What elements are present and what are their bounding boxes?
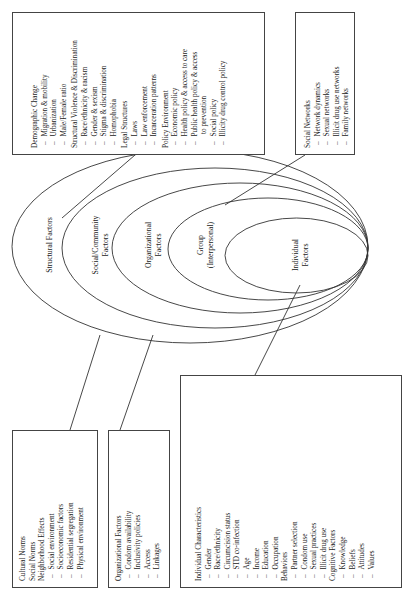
label-individual-factors: Individual Factors <box>291 239 310 271</box>
heading-legal-structures: Legal Structures <box>121 19 131 148</box>
item: Stigma & discrimination <box>100 19 110 148</box>
item: Economic policy <box>171 19 181 148</box>
label-line: Organizational <box>144 222 154 268</box>
item: Illicity drug control policy <box>219 19 229 148</box>
item: Socioeconomic factors <box>57 437 67 581</box>
connector-organizational <box>120 335 153 430</box>
item: Laws <box>131 19 141 148</box>
item: Homophobia <box>110 19 120 148</box>
label-line: Factors <box>300 239 310 271</box>
box-individual: Individual Characteristics Gender Race/e… <box>180 375 402 588</box>
box-structural: Demographic Change Migration & mobility … <box>12 12 265 155</box>
item: Incarceration patterns <box>150 19 160 148</box>
label-line: Factors <box>100 216 110 275</box>
connector-structural <box>62 155 135 218</box>
item: Sexual networks <box>323 19 333 148</box>
item: Illicit drug use networks <box>333 19 343 148</box>
heading-social-networks: Social Networks <box>304 19 314 148</box>
item: Social policy <box>210 19 220 148</box>
item: Income <box>253 382 263 581</box>
item: Condom use <box>301 382 311 581</box>
item: Social environment <box>48 437 58 581</box>
heading-demographic-change: Demographic Change <box>31 19 41 148</box>
label-line: Structural Factors <box>45 217 55 273</box>
connector-individual <box>255 285 300 375</box>
item: Partner selection <box>291 382 301 581</box>
item: Sexual practices <box>310 382 320 581</box>
item: Gender & sexism <box>91 19 101 148</box>
item: Illicit drug use <box>320 382 330 581</box>
item: Occupation <box>272 382 282 581</box>
item: Gender <box>205 382 215 581</box>
item: Knowledge <box>339 382 349 581</box>
heading-individual-characteristics: Individual Characteristics <box>195 382 205 581</box>
item: Law enforcement <box>141 19 151 148</box>
item: Education <box>262 382 272 581</box>
item: Race/ethnicity <box>214 382 224 581</box>
item: Migration & mobility <box>41 19 51 148</box>
item: Attitudes <box>358 382 368 581</box>
label-line: Social/Community <box>91 216 101 275</box>
item: Public health policy & access <box>191 19 201 148</box>
label-organizational-factors: Organizational Factors <box>144 222 163 268</box>
item: Access <box>144 437 154 581</box>
socioecological-diagram: Structural Factors Social/Community Fact… <box>0 0 408 596</box>
heading-organizational-factors: Organizational Factors <box>115 437 125 581</box>
item: Circumcision status <box>224 382 234 581</box>
label-line: Individual <box>291 239 301 271</box>
connector-cultural <box>70 335 100 430</box>
label-structural-factors: Structural Factors <box>45 217 55 273</box>
item: Race/ethnicity & racism <box>81 19 91 148</box>
item: Inclusivity policies <box>134 437 144 581</box>
item: Urbanization <box>50 19 60 148</box>
box-social-networks: Social Networks Network dynamics Sexual … <box>295 12 355 155</box>
item: Linkages <box>153 437 163 581</box>
heading-cultural-norms: Cultural Norms <box>19 437 29 581</box>
item: Age <box>243 382 253 581</box>
item: Network dynamics <box>314 19 324 148</box>
item: Male/Female ratio <box>60 19 70 148</box>
heading-policy-environment: Policy Environment <box>162 19 172 148</box>
item: Physical environment <box>77 437 87 581</box>
label-group-interpersonal: Group (Interpersonal) <box>196 222 215 268</box>
item: Health policy & access to care <box>181 19 191 148</box>
heading-behaviors: Behaviors <box>281 382 291 581</box>
ellipse-structural <box>12 150 368 343</box>
label-line: Factors <box>153 222 163 268</box>
box-social-community: Cultural Norms Social Norms Neighborhood… <box>12 430 98 588</box>
box-organizational: Organizational Factors Condom availabili… <box>108 430 170 588</box>
item: Values <box>368 382 378 581</box>
item: Beliefs <box>349 382 359 581</box>
heading-structural-violence: Structural Violence & Discrimination <box>71 19 81 148</box>
label-line: Group <box>196 222 206 268</box>
label-social-community-factors: Social/Community Factors <box>91 216 110 275</box>
heading-social-norms: Social Norms <box>29 437 39 581</box>
item-continuation: to prevention <box>200 19 210 148</box>
label-line: (Interpersonal) <box>205 222 215 268</box>
connector-social-networks <box>225 155 305 205</box>
item: Residential segregation <box>67 437 77 581</box>
item: STD co-infection <box>233 382 243 581</box>
item: Family networks <box>342 19 352 148</box>
item: Condom availability <box>125 437 135 581</box>
heading-neighborhood-effects: Neighborhood Effects <box>38 437 48 581</box>
heading-cognitive-factors: Cognitive Factors <box>329 382 339 581</box>
